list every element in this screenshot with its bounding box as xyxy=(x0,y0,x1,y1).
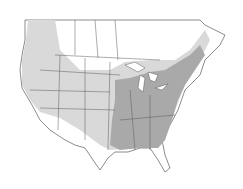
range-map xyxy=(0,0,243,189)
